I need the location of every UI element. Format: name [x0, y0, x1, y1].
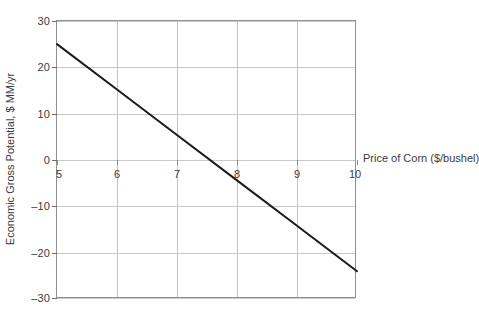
y-tick-label-neg20: –20 — [31, 247, 50, 259]
x-tick-mark-10 — [357, 160, 358, 165]
y-tick-label-20: 20 — [38, 61, 50, 73]
y-tick-label-0: 0 — [44, 154, 50, 166]
y-tick-label-10: 10 — [38, 108, 50, 120]
y-tick-label-neg30: –30 — [31, 292, 50, 304]
x-axis-title: Price of Corn ($/bushel) — [363, 152, 479, 164]
plot-area: 30 20 10 0 –10 –20 –30 5 6 7 8 9 10 — [56, 20, 356, 298]
y-tick-label-neg10: –10 — [31, 200, 50, 212]
series-line-economic-gross-potential — [57, 21, 357, 299]
y-axis-title: Economic Gross Potential, $ MM/yr — [4, 73, 16, 245]
y-tick-label-30: 30 — [38, 15, 50, 27]
